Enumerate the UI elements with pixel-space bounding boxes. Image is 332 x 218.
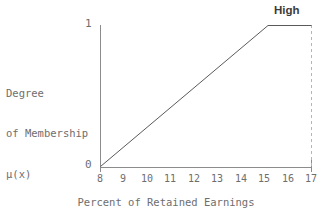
membership-function-chart: Degree of Membership μ(x) 1 0 8 9 10 11 …	[0, 0, 332, 218]
x-tick-label-8: 8	[88, 173, 112, 186]
y-tick-label-0: 0	[85, 158, 92, 172]
x-tick-label-10: 10	[135, 173, 159, 186]
x-tick-label-12: 12	[182, 173, 206, 186]
x-tick-label-9: 9	[111, 173, 135, 186]
x-tick-label-15: 15	[252, 173, 276, 186]
x-tick-label-13: 13	[205, 173, 229, 186]
x-tick-label-16: 16	[276, 173, 300, 186]
x-tick-label-17: 17	[299, 173, 323, 186]
y-axis-title-line-1: Degree	[6, 87, 88, 100]
y-axis-title: Degree of Membership μ(x)	[6, 60, 88, 208]
y-axis-title-line-3: μ(x)	[6, 168, 88, 181]
series-label-high: High	[274, 3, 300, 18]
series-high-line	[101, 26, 312, 167]
x-axis-title: Percent of Retained Earnings	[0, 196, 332, 209]
y-axis-title-line-2: of Membership	[6, 127, 88, 140]
y-tick-label-1: 1	[85, 17, 92, 31]
x-tick-label-14: 14	[229, 173, 253, 186]
x-tick-label-11: 11	[158, 173, 182, 186]
